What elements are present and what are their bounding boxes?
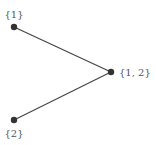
label-set-2: {2} (4, 128, 23, 139)
label-set-1-2: {1, 2} (119, 67, 151, 78)
node-set-1 (11, 24, 17, 30)
label-set-1: {1} (4, 9, 23, 20)
hasse-diagram: {1} {1, 2} {2} (0, 0, 156, 145)
node-set-1-2 (108, 69, 114, 75)
edge-2-to-12 (14, 72, 111, 120)
edge-1-to-12 (14, 27, 111, 72)
node-set-2 (11, 117, 17, 123)
